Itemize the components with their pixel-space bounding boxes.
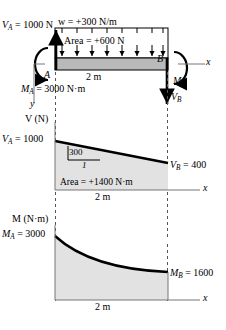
moment-axis-x-label: x bbox=[203, 293, 207, 303]
shear-end-value: = 400 bbox=[183, 159, 206, 170]
moment-end-value: = 1600 bbox=[185, 267, 213, 278]
slope-run-label: 1 bbox=[82, 161, 87, 170]
moment-start-value: = 3000 bbox=[17, 228, 45, 239]
moment-b-subscript: B bbox=[181, 80, 185, 88]
shear-start-subscript: A bbox=[8, 138, 12, 146]
moment-start-subscript: A bbox=[10, 233, 14, 241]
shear-a-value: = 1000 N bbox=[15, 19, 53, 30]
shear-span-label: 2 m bbox=[95, 192, 110, 202]
moment-a-label: MA = 3000 N·m bbox=[21, 84, 85, 96]
slope-rise-label: 300 bbox=[69, 148, 83, 157]
beam-axis-x-label: x bbox=[206, 57, 210, 67]
shear-a-label: VA = 1000 N bbox=[2, 20, 53, 32]
shear-area-label: Area = +1400 N·m bbox=[60, 178, 133, 188]
point-b-label: B bbox=[157, 54, 163, 64]
beam-body bbox=[55, 58, 168, 70]
shear-b-label: VB bbox=[171, 92, 182, 104]
figure-root: w = +300 N/m Area = +600 N VA = 1000 N A… bbox=[0, 0, 226, 330]
beam-axis-y-label: y bbox=[30, 99, 34, 109]
moment-b-label: MB bbox=[173, 76, 186, 88]
point-a-label: A bbox=[44, 70, 50, 80]
moment-end-label: MB = 1600 bbox=[170, 268, 213, 280]
shear-end-label: VB = 400 bbox=[170, 160, 206, 172]
distributed-load-label: w = +300 N/m bbox=[58, 17, 117, 27]
moment-a-subscript: A bbox=[29, 88, 33, 96]
moment-start-label: MA = 3000 bbox=[2, 229, 45, 241]
shear-a-subscript: A bbox=[8, 24, 12, 32]
shear-end-subscript: B bbox=[176, 164, 180, 172]
moment-end-subscript: B bbox=[178, 272, 182, 280]
shear-axis-x-label: x bbox=[203, 183, 207, 193]
moment-a-value: = 3000 N·m bbox=[36, 83, 85, 94]
shear-b-subscript: B bbox=[177, 96, 181, 104]
shear-axis-title: V (N) bbox=[25, 114, 48, 124]
moment-area-fill bbox=[55, 236, 168, 300]
moment-span-label: 2 m bbox=[95, 302, 110, 312]
beam-span-label: 2 m bbox=[86, 72, 101, 82]
moment-diagram bbox=[55, 225, 200, 300]
load-area-label: Area = +600 N bbox=[64, 36, 124, 46]
moment-axis-title: M (N·m) bbox=[12, 214, 48, 224]
shear-start-label: VA = 1000 bbox=[2, 134, 43, 146]
shear-start-value: = 1000 bbox=[15, 133, 43, 144]
